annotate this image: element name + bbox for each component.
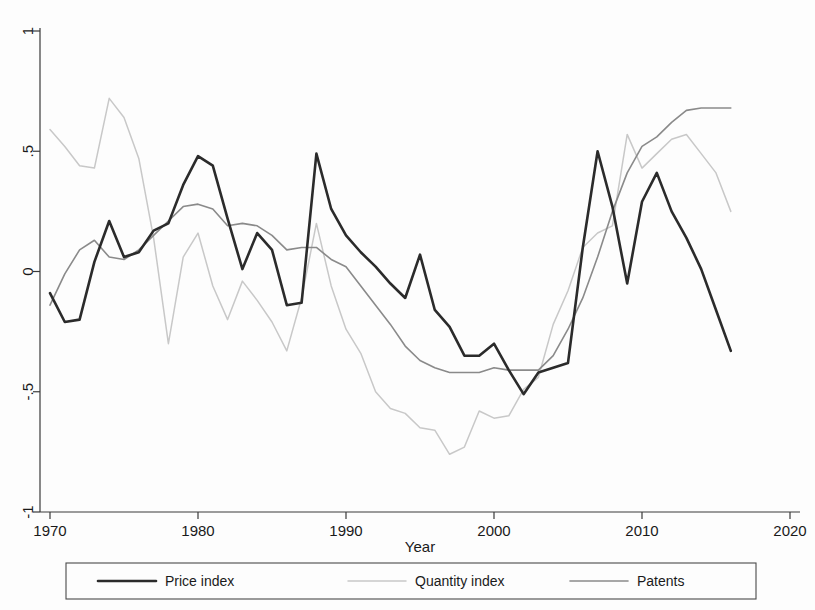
x-tick-label: 2010	[625, 522, 658, 539]
legend-label-patents: Patents	[637, 573, 684, 589]
line-chart-svg: -1-.50.51 197019801990200020102020 Year …	[0, 0, 815, 610]
y-tick-label: 0	[19, 267, 36, 275]
legend-label-quantity-index: Quantity index	[415, 573, 505, 589]
x-tick-label: 2020	[773, 522, 806, 539]
x-axis-title: Year	[405, 538, 435, 555]
chart-legend: Price indexQuantity indexPatents	[66, 563, 756, 599]
series-line-patents	[50, 108, 731, 373]
y-tick-label: -1	[19, 505, 36, 518]
y-tick-label: .5	[19, 145, 36, 158]
series-line-price-index	[50, 151, 731, 394]
x-tick-label: 1980	[181, 522, 214, 539]
y-axis-ticks: -1-.50.51	[19, 27, 41, 519]
y-tick-label: -.5	[19, 383, 36, 401]
series-lines	[50, 98, 731, 454]
chart-container: -1-.50.51 197019801990200020102020 Year …	[0, 0, 815, 610]
x-tick-label: 1990	[329, 522, 362, 539]
legend-label-price-index: Price index	[165, 573, 234, 589]
x-tick-label: 1970	[33, 522, 66, 539]
x-axis-ticks: 197019801990200020102020	[33, 512, 806, 539]
y-tick-label: 1	[19, 27, 36, 35]
x-tick-label: 2000	[477, 522, 510, 539]
plot-frame	[40, 28, 800, 512]
